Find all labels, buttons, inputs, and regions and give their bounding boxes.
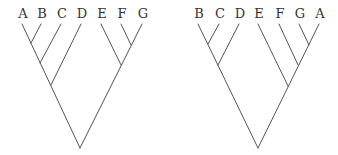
left-taxon-label-a: A (17, 6, 28, 21)
left-taxon-label-c: C (57, 6, 67, 21)
left-taxon-label-g: G (138, 6, 148, 21)
right-taxon-label-a: A (314, 6, 325, 21)
left-taxon-label-d: D (77, 6, 87, 21)
right-taxon-label-f: F (275, 6, 284, 21)
right-taxon-label-c: C (215, 6, 225, 21)
left-taxon-label-f: F (117, 6, 126, 21)
left-taxon-label-e: E (97, 6, 107, 21)
branch-g-to-root (80, 24, 142, 148)
right-tree: BCDEFGA (194, 6, 325, 148)
branch-b (31, 24, 41, 43)
left-taxon-label-b: B (37, 6, 47, 21)
branch-d (218, 24, 239, 65)
branch-d (51, 24, 81, 85)
right-taxon-label-b: B (194, 6, 204, 21)
branch-f (121, 24, 131, 45)
right-taxon-label-g: G (295, 6, 305, 21)
right-taxon-label-e: E (254, 6, 264, 21)
right-taxon-label-d: D (235, 6, 245, 21)
branch-c (208, 24, 219, 44)
branch-e (101, 24, 121, 65)
branch-g (299, 24, 309, 45)
phylogenetic-trees-figure: ABCDEFG BCDEFGA (0, 0, 338, 155)
branch-b-to-root (198, 24, 258, 148)
branch-f (279, 24, 298, 65)
left-tree: ABCDEFG (17, 6, 148, 148)
branch-c (40, 24, 61, 63)
